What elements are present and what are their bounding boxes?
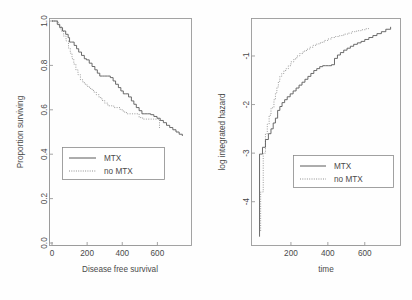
y-tick-label: 0.2 (40, 192, 49, 204)
hazard-plot: -1-2-3-4 200400600 MTX no MTX time log i… (206, 0, 412, 300)
y-tick-label: 0.8 (40, 59, 49, 71)
legend-label-no-mtx: no MTX (334, 175, 363, 184)
y-axis-title: Proportion surviving (16, 95, 25, 168)
legend[interactable]: MTX no MTX (294, 156, 394, 188)
panel-survival: 0.00.20.40.60.81.0 0200400600 MTX no MTX… (0, 0, 206, 300)
y-tick-label: -2 (242, 100, 251, 108)
x-tick-label: 200 (284, 249, 298, 258)
y-axis: 0.00.20.40.60.81.0 (40, 15, 53, 249)
y-tick-label: 0.0 (40, 237, 49, 249)
curve-mtx (260, 27, 391, 237)
plot-frame (50, 19, 192, 246)
x-tick-label: 400 (115, 249, 129, 258)
x-axis: 0200400600 (50, 242, 165, 258)
x-tick-label: 600 (358, 249, 372, 258)
survival-plot: 0.00.20.40.60.81.0 0200400600 MTX no MTX… (0, 0, 206, 300)
y-axis: -1-2-3-4 (242, 52, 255, 205)
x-axis: 200400600 (284, 242, 372, 258)
legend-label-mtx: MTX (104, 154, 122, 163)
x-tick-label: 400 (321, 249, 335, 258)
y-axis-title: log integrated hazard (218, 93, 227, 170)
legend-label-no-mtx: no MTX (104, 167, 133, 176)
x-tick-label: 600 (151, 249, 165, 258)
y-tick-label: 0.6 (40, 104, 49, 116)
y-tick-label: -4 (242, 198, 251, 206)
x-axis-title: Disease free survival (82, 265, 158, 274)
y-tick-label: 1.0 (40, 15, 49, 27)
x-tick-label: 200 (80, 249, 94, 258)
x-axis-title: time (318, 265, 334, 274)
panel-hazard: -1-2-3-4 200400600 MTX no MTX time log i… (206, 0, 412, 300)
legend[interactable]: MTX no MTX (63, 148, 165, 180)
curve-mtx (52, 21, 182, 136)
y-tick-label: -3 (242, 149, 251, 157)
legend-label-mtx: MTX (334, 162, 352, 171)
plot-frame (252, 19, 401, 246)
y-tick-label: 0.4 (40, 148, 49, 160)
curve-no-mtx (261, 27, 369, 231)
y-tick-label: -1 (242, 52, 251, 60)
figure-canvas: 0.00.20.40.60.81.0 0200400600 MTX no MTX… (0, 0, 412, 300)
x-tick-label: 0 (50, 249, 55, 258)
